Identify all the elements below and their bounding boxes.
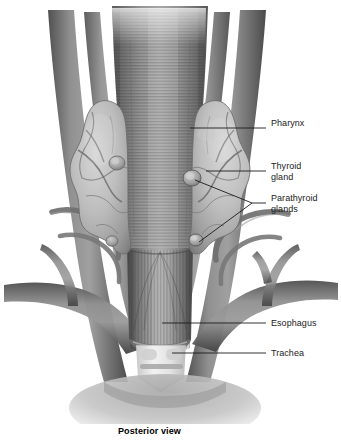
thyroid-anatomy-illustration xyxy=(0,0,341,447)
label-parathyroid-glands-line2: glands xyxy=(271,204,298,215)
label-parathyroid-glands: Parathyroid xyxy=(271,193,318,204)
label-pharynx: Pharynx xyxy=(271,118,304,129)
label-esophagus: Esophagus xyxy=(271,318,317,329)
figure-caption: Posterior view xyxy=(118,426,181,436)
parathyroid-gland-superior xyxy=(183,170,201,186)
parathyroid-gland-inferior xyxy=(189,234,203,246)
label-thyroid-gland: Thyroid xyxy=(271,161,301,172)
label-trachea: Trachea xyxy=(271,348,304,359)
label-thyroid-gland-line2: gland xyxy=(271,172,293,183)
